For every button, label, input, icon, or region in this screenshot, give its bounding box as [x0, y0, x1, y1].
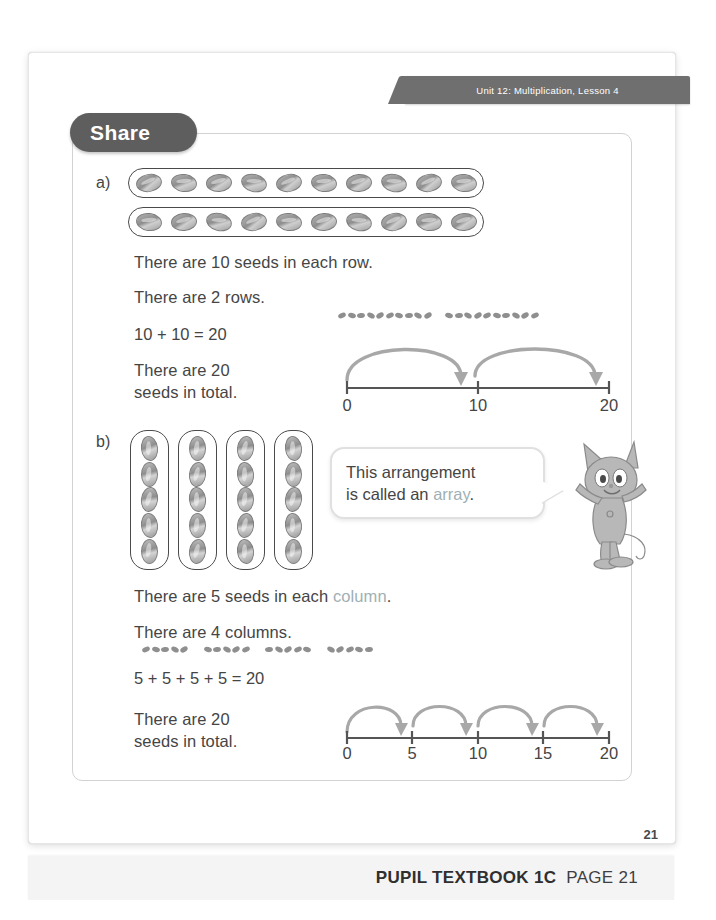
mini-seed — [364, 646, 373, 652]
seed — [204, 210, 234, 234]
part-b-total-line-1: There are 20 — [134, 710, 230, 729]
part-b-line-1-post: . — [387, 587, 392, 605]
seed — [379, 171, 409, 195]
seed — [189, 436, 206, 461]
number-line-b-tick-10: 10 — [469, 744, 487, 763]
seed — [240, 211, 269, 233]
seed — [345, 173, 372, 193]
mini-seed — [151, 646, 160, 653]
section-tab-share[interactable]: Share — [70, 113, 197, 152]
number-line-b-tick-5: 5 — [407, 744, 416, 763]
mini-seed — [444, 312, 453, 319]
seed-row — [128, 207, 484, 237]
unit-banner: Unit 12: Multiplication, Lesson 4 — [405, 76, 690, 104]
seed-column — [274, 430, 313, 570]
seed — [310, 212, 337, 232]
mini-seed-cluster-b — [142, 647, 374, 652]
mini-seed — [213, 646, 222, 652]
seed — [285, 539, 302, 564]
seed — [135, 211, 163, 232]
mini-seed — [404, 312, 413, 318]
number-line-b-tick-15: 15 — [534, 744, 552, 763]
seed — [170, 172, 198, 193]
footer-strip: PUPIL TEXTBOOK 1C PAGE 21 — [28, 856, 674, 900]
seed — [275, 172, 304, 194]
speech-bubble-line-2-pre: is called an — [346, 485, 433, 503]
mini-seed — [354, 646, 363, 653]
seed — [284, 435, 304, 462]
part-a-equation: 10 + 10 = 20 — [134, 325, 227, 344]
seed — [239, 171, 269, 195]
number-line-b-tick-0: 0 — [342, 744, 351, 763]
number-line-a-tick-20: 20 — [600, 396, 618, 415]
seed — [236, 461, 256, 488]
mini-seed — [265, 646, 274, 652]
speech-bubble-highlight-array: array — [433, 485, 469, 503]
mini-seed — [161, 646, 170, 652]
seed — [141, 539, 158, 564]
cat-mascot — [558, 438, 663, 573]
seed — [205, 173, 232, 193]
part-a-line-1: There are 10 seeds in each row. — [134, 253, 373, 272]
seed — [140, 487, 160, 514]
seed — [236, 512, 256, 539]
part-label-b: b) — [96, 433, 110, 451]
seed — [188, 461, 208, 488]
footer-page-label: PAGE 21 — [566, 868, 638, 888]
seed — [236, 435, 256, 462]
number-line-a-tick-0: 0 — [342, 396, 351, 415]
mini-seed — [492, 312, 501, 319]
seed — [140, 435, 160, 462]
seed — [135, 172, 164, 194]
seed — [141, 462, 158, 487]
seed — [284, 512, 304, 539]
seed — [450, 212, 477, 232]
number-line-b — [333, 686, 623, 746]
part-label-a: a) — [96, 174, 110, 192]
unit-banner-label: Unit 12: Multiplication, Lesson 4 — [476, 85, 618, 96]
seed-column — [130, 430, 169, 570]
seed — [189, 513, 206, 538]
mini-seed — [502, 312, 511, 318]
page-number: 21 — [644, 827, 658, 842]
seed-column — [178, 430, 217, 570]
seed — [450, 172, 478, 193]
part-b-line-2: There are 4 columns. — [134, 623, 292, 642]
speech-bubble-line-2-post: . — [470, 485, 475, 503]
number-line-a-tick-10: 10 — [469, 396, 487, 415]
speech-bubble-line-1: This arrangement — [346, 461, 543, 483]
speech-bubble-line-2: is called an array. — [346, 483, 543, 505]
mini-seed — [302, 646, 311, 653]
part-b-line-1-pre: There are 5 seeds in each — [134, 587, 333, 605]
part-a-line-2: There are 2 rows. — [134, 288, 265, 307]
part-b-total-line-2: seeds in total. — [134, 732, 237, 751]
number-line-b-tick-20: 20 — [600, 744, 618, 763]
seed — [188, 487, 208, 514]
part-a-total-line-1: There are 20 — [134, 361, 230, 380]
seed — [344, 210, 374, 234]
part-b-equation: 5 + 5 + 5 + 5 = 20 — [134, 669, 264, 688]
seed — [415, 172, 444, 194]
mini-seed — [357, 312, 366, 318]
section-tab-label: Share — [90, 121, 150, 145]
number-line-a — [333, 334, 623, 394]
seed — [140, 512, 160, 539]
seed — [275, 211, 303, 232]
mini-seed — [347, 312, 356, 319]
seed — [188, 538, 208, 565]
seed — [415, 211, 443, 232]
seed — [170, 212, 197, 232]
speech-bubble: This arrangement is called an array. — [330, 447, 545, 519]
seed — [285, 462, 302, 487]
part-b-line-1: There are 5 seeds in each column. — [134, 587, 391, 606]
seed — [237, 487, 254, 512]
part-a-total-line-2: seeds in total. — [134, 383, 237, 402]
seed-row — [128, 168, 484, 198]
mini-seed — [394, 312, 403, 319]
mini-seed-cluster-a — [338, 313, 540, 318]
mini-seed — [454, 312, 463, 318]
mini-seed — [203, 646, 212, 653]
footer-book-title: PUPIL TEXTBOOK 1C — [376, 868, 556, 888]
seed — [310, 172, 338, 193]
seed — [236, 538, 256, 565]
